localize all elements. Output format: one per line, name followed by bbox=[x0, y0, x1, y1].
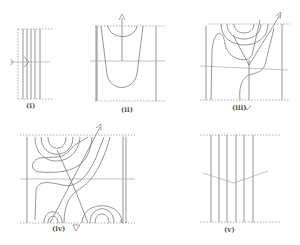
panel-ii bbox=[90, 14, 165, 101]
panel-label-i: (i) bbox=[26, 101, 35, 110]
panel-iii bbox=[200, 12, 290, 110]
panel-label-iii: (iii) bbox=[232, 103, 247, 112]
panel-label-iv: (iv) bbox=[52, 224, 65, 233]
figure-canvas bbox=[0, 0, 300, 245]
panel-label-v: (v) bbox=[224, 225, 235, 234]
panel-iv bbox=[20, 124, 135, 231]
panel-i bbox=[10, 29, 54, 99]
panel-label-ii: (ii) bbox=[121, 105, 133, 114]
panel-v bbox=[200, 135, 280, 222]
